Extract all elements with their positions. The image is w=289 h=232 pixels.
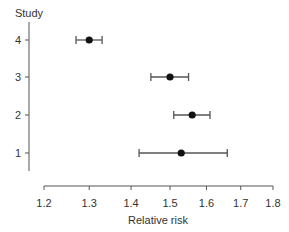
study-3-estimate bbox=[151, 73, 189, 81]
x-axis: 1.21.31.41.51.61.71.8 bbox=[36, 186, 280, 209]
y-tick-label: 4 bbox=[15, 34, 21, 46]
x-tick-label: 1.2 bbox=[36, 197, 51, 209]
point-estimate-marker bbox=[166, 73, 173, 80]
y-tick-label: 3 bbox=[15, 71, 21, 83]
point-estimate-marker bbox=[86, 36, 93, 43]
x-tick-label: 1.8 bbox=[265, 197, 280, 209]
y-axis-title: Study bbox=[15, 7, 44, 19]
study-4-estimate bbox=[76, 36, 102, 44]
y-axis: 1234 bbox=[15, 22, 29, 171]
point-estimate-marker bbox=[189, 111, 196, 118]
y-tick-label: 1 bbox=[15, 147, 21, 159]
x-tick-label: 1.4 bbox=[123, 197, 138, 209]
x-tick-label: 1.5 bbox=[162, 197, 177, 209]
point-estimate-marker bbox=[178, 149, 185, 156]
study-2-estimate bbox=[174, 111, 210, 119]
plot-canvas: Study Relative risk 1234 1.21.31.41.51.6… bbox=[0, 0, 289, 232]
forest-plot: Study Relative risk 1234 1.21.31.41.51.6… bbox=[0, 0, 289, 232]
study-estimates bbox=[76, 36, 227, 157]
x-tick-label: 1.3 bbox=[82, 197, 97, 209]
x-axis-title: Relative risk bbox=[128, 214, 188, 226]
y-tick-label: 2 bbox=[15, 109, 21, 121]
study-1-estimate bbox=[139, 149, 227, 157]
x-tick-label: 1.7 bbox=[233, 197, 248, 209]
x-tick-label: 1.6 bbox=[199, 197, 214, 209]
